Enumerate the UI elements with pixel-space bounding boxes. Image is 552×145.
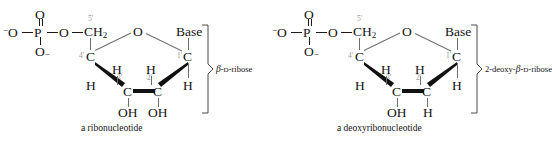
locant-4-prime: 4' bbox=[79, 52, 84, 60]
bond-c1-base bbox=[457, 38, 458, 50]
sugar-name-label: 2-deoxy-β-D-ribose bbox=[485, 65, 552, 75]
bond-obridge-ch2 bbox=[341, 32, 352, 33]
bond-p-otop-b bbox=[42, 19, 43, 26]
bond-c3-c2-front bbox=[133, 89, 155, 93]
bond-c3-h bbox=[386, 76, 387, 85]
h-on-c2: H bbox=[146, 63, 156, 77]
c5-methylene-group: CH2 bbox=[84, 25, 107, 40]
sugar-bracket bbox=[469, 24, 483, 114]
sugar-name-label: β-D-ribose bbox=[216, 65, 252, 75]
c5-methylene-group: CH2 bbox=[353, 25, 376, 40]
h-on-c2: H bbox=[415, 63, 425, 77]
bond-p-otop-a bbox=[39, 19, 40, 26]
h-on-c3: H bbox=[112, 63, 122, 77]
bond-p-otop-a bbox=[308, 19, 309, 26]
substituent-on-c2: H bbox=[423, 106, 433, 120]
base-label: Base bbox=[176, 25, 202, 39]
locant-5-prime: 5' bbox=[357, 15, 362, 23]
bond-c1-base bbox=[188, 38, 189, 50]
wedge-bond-c1-c2 bbox=[426, 62, 460, 90]
locant-5-prime: 5' bbox=[88, 15, 93, 23]
c4-atom: C bbox=[355, 50, 364, 64]
structure-caption: a deoxyribonucleotide bbox=[337, 124, 422, 134]
bond-p-obridge bbox=[316, 32, 327, 33]
bond-p-obridge bbox=[47, 32, 58, 33]
sugar-bracket bbox=[200, 24, 214, 114]
base-label: Base bbox=[445, 25, 471, 39]
phosphate-terminal-oxygen-left: −O bbox=[3, 26, 18, 40]
bond-c2-h bbox=[151, 76, 152, 85]
c4-atom: C bbox=[86, 50, 95, 64]
structure-caption: a ribonucleotide bbox=[81, 124, 142, 134]
locant-4-prime: 4' bbox=[348, 52, 353, 60]
bond-obridge-ch2 bbox=[72, 32, 83, 33]
bond-oleft-p bbox=[291, 32, 302, 33]
structure-deoxyribonucleotide: −O P O O− O 5' CH2 4' C O 1' C Base H H … bbox=[274, 0, 548, 145]
locant-1-prime: 1' bbox=[446, 52, 451, 60]
phosphate-terminal-oxygen-bottom: O− bbox=[304, 45, 319, 59]
bond-p-otop-b bbox=[311, 19, 312, 26]
substituent-on-c2: OH bbox=[148, 106, 168, 120]
structure-ribonucleotide: −O P O O− O 5' CH2 4' C O 1' C Base H bbox=[0, 0, 274, 145]
bond-c2-h bbox=[420, 76, 421, 85]
bond-oleft-p bbox=[22, 32, 33, 33]
substituent-on-c3: OH bbox=[387, 106, 407, 120]
h-on-c3: H bbox=[381, 63, 391, 77]
ring-oxygen-atom: O bbox=[402, 25, 412, 39]
substituent-on-c3: OH bbox=[118, 106, 138, 120]
locant-1-prime: 1' bbox=[177, 52, 182, 60]
ring-oxygen-atom: O bbox=[133, 25, 143, 39]
phosphate-terminal-oxygen-left: −O bbox=[272, 26, 287, 40]
phosphate-terminal-oxygen-bottom: O− bbox=[35, 45, 50, 59]
bond-c3-h bbox=[117, 76, 118, 85]
bond-c3-c2-front bbox=[402, 89, 424, 93]
wedge-bond-c1-c2 bbox=[157, 62, 191, 90]
bridging-oxygen: O bbox=[328, 26, 338, 40]
bridging-oxygen: O bbox=[59, 26, 69, 40]
